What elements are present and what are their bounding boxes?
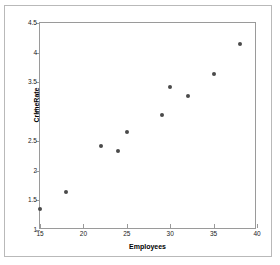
x-axis-title: Employees <box>39 243 256 250</box>
x-tick-mark <box>127 224 128 228</box>
data-point <box>38 207 42 211</box>
data-point <box>186 94 190 98</box>
data-point <box>116 149 120 153</box>
y-tick-label: 4 <box>33 49 37 56</box>
y-tick-label: 1.5 <box>28 197 37 204</box>
plot-area: 11.522.533.544.5 152025303540 <box>39 22 256 229</box>
data-point <box>212 72 216 76</box>
x-tick-label: 20 <box>80 231 87 238</box>
data-point <box>64 190 68 194</box>
x-tick-mark <box>170 224 171 228</box>
x-tick-mark <box>40 224 41 228</box>
x-tick-label: 30 <box>167 231 174 238</box>
data-point <box>125 130 129 134</box>
y-tick-label: 2 <box>33 168 37 175</box>
y-tick-label: 2.5 <box>28 138 37 145</box>
data-point <box>238 42 242 46</box>
x-tick-label: 40 <box>253 231 260 238</box>
x-tick-label: 35 <box>210 231 217 238</box>
y-tick-label: 4.5 <box>28 20 37 27</box>
x-tick-mark <box>83 224 84 228</box>
x-tick-label: 25 <box>123 231 130 238</box>
x-tick-mark <box>214 224 215 228</box>
scatter-plot-figure: 11.522.533.544.5 152025303540 Employees … <box>0 0 280 265</box>
data-point <box>99 144 103 148</box>
x-tick-mark <box>257 224 258 228</box>
data-point <box>168 85 172 89</box>
x-tick-label: 15 <box>36 231 43 238</box>
y-axis-title: CrimeRate <box>33 75 40 135</box>
data-point <box>160 113 164 117</box>
